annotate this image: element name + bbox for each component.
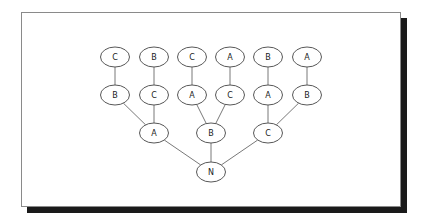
tree-node-a: A [216, 47, 245, 67]
node-label: C [112, 53, 118, 62]
node-label: C [151, 91, 157, 100]
node-label: A [227, 53, 233, 62]
tree-edge [197, 104, 207, 123]
tree-node-a: A [254, 85, 283, 105]
node-label: B [208, 129, 214, 138]
tree-node-c: C [101, 47, 130, 67]
tree-node-n: N [197, 162, 226, 182]
node-label: B [112, 91, 118, 100]
tree-node-b: B [140, 47, 169, 67]
node-label: C [265, 129, 271, 138]
tree-diagram: NABCBCACABCBCABA [0, 0, 426, 223]
tree-node-b: B [101, 85, 130, 105]
node-label: N [208, 168, 214, 177]
tree-node-a: A [293, 47, 322, 67]
tree-edge [276, 103, 298, 125]
tree-node-a: A [140, 123, 169, 143]
tree-node-c: C [254, 123, 283, 143]
tree-edge [123, 103, 145, 125]
node-label: B [265, 53, 271, 62]
node-label: C [227, 91, 233, 100]
node-label: C [189, 53, 195, 62]
tree-node-b: B [254, 47, 283, 67]
tree-node-a: A [178, 85, 207, 105]
tree-edge [164, 140, 200, 165]
tree-node-b: B [293, 85, 322, 105]
node-label: B [304, 91, 310, 100]
tree-nodes: NABCBCACABCBCABA [101, 47, 322, 182]
tree-node-b: B [197, 123, 226, 143]
node-label: A [151, 129, 157, 138]
tree-node-c: C [178, 47, 207, 67]
node-label: B [151, 53, 157, 62]
tree-edge [221, 140, 257, 165]
tree-edges [115, 67, 307, 165]
tree-edge [216, 104, 226, 123]
tree-node-c: C [140, 85, 169, 105]
node-label: A [265, 91, 271, 100]
tree-node-c: C [216, 85, 245, 105]
node-label: A [189, 91, 195, 100]
node-label: A [304, 53, 310, 62]
